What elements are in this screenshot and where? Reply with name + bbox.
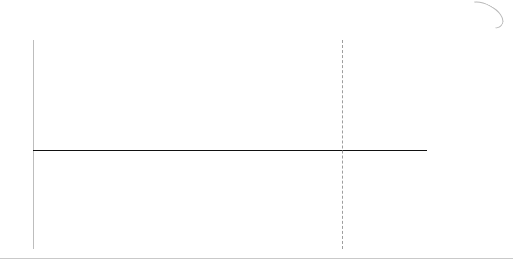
footer-divider xyxy=(0,258,513,259)
eia-logo xyxy=(463,3,505,29)
chart-container xyxy=(0,0,513,266)
zero-line xyxy=(33,150,427,151)
forecast-divider xyxy=(342,40,343,249)
chart-series-band xyxy=(0,0,394,209)
logo-arc xyxy=(462,0,508,34)
